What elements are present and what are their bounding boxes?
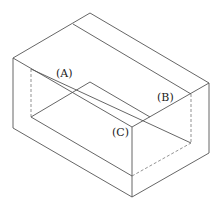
label-b: (B)	[157, 91, 174, 104]
block-diagram: (A) (B) (C)	[0, 0, 220, 207]
floor-back-right	[90, 82, 150, 117]
hidden-floor-front-right	[132, 143, 191, 176]
top-back-right-edge	[90, 13, 209, 83]
floor-back-left	[31, 82, 90, 117]
top-front-right-edge	[132, 83, 209, 127]
top-back-left-edge	[13, 13, 90, 58]
inner-top-line	[73, 24, 191, 94]
label-a: (A)	[56, 67, 73, 80]
bottom-right-edge	[132, 153, 209, 197]
label-c: (C)	[112, 126, 129, 139]
